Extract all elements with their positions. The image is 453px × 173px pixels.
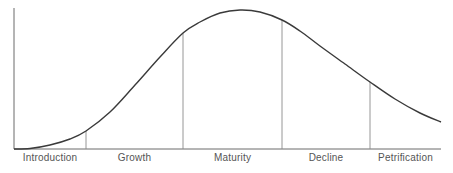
stage-label-decline: Decline xyxy=(309,152,344,163)
stage-dividers xyxy=(86,20,370,149)
stage-label-maturity: Maturity xyxy=(214,152,251,163)
life-cycle-curve xyxy=(14,10,441,149)
stage-label-growth: Growth xyxy=(118,152,151,163)
stage-label-petrification: Petrification xyxy=(378,152,433,163)
stage-label-introduction: Introduction xyxy=(23,152,78,163)
life-cycle-chart xyxy=(0,0,453,173)
